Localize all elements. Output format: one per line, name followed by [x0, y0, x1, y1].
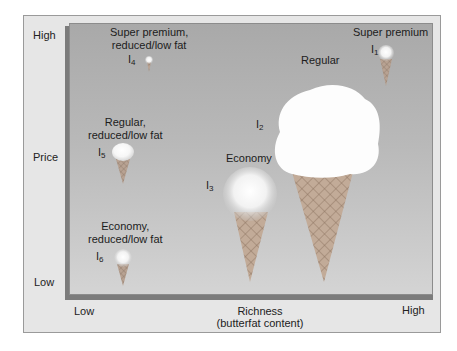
item-sub: 6: [99, 255, 103, 264]
label-line: reduced/low fat: [88, 233, 163, 246]
cone-i4: [145, 56, 153, 72]
item-label-i1: I1: [371, 43, 379, 57]
label-line: Economy,: [88, 220, 163, 233]
y-axis-high: High: [33, 29, 56, 41]
label-regular: Regular: [301, 54, 340, 67]
item-label-i4: I4: [128, 53, 136, 67]
label-super-premium: Super premium: [353, 26, 428, 39]
label-regular-low-fat: Regular, reduced/low fat: [88, 116, 163, 142]
item-sub: 5: [101, 151, 105, 160]
label-economy: Economy: [226, 152, 272, 165]
item-label-i6: I6: [96, 250, 104, 264]
label-line: Regular,: [88, 116, 163, 129]
cone-i5: [112, 143, 134, 184]
x-axis-title: Richness (butterfat content): [200, 305, 320, 329]
x-axis-low: Low: [74, 305, 94, 317]
cone-i2: [275, 85, 380, 282]
label-economy-low-fat: Economy, reduced/low fat: [88, 220, 163, 246]
plot-area: Super premium I1 Regular I2 Economy I3 S…: [69, 23, 433, 295]
cone-i3: [223, 167, 277, 282]
y-axis-low: Low: [34, 276, 54, 288]
label-line: reduced/low fat: [88, 129, 163, 142]
x-axis-high: High: [402, 304, 425, 316]
cone-i6: [114, 249, 132, 286]
item-label-i2: I2: [256, 118, 264, 132]
label-line: Super premium,: [110, 26, 188, 39]
x-axis-title-line1: Richness: [200, 305, 320, 317]
x-axis-title-line2: (butterfat content): [200, 317, 320, 329]
item-sub: 4: [131, 58, 135, 67]
item-label-i3: I3: [206, 179, 214, 193]
item-label-i5: I5: [98, 146, 106, 160]
cone-i1: [378, 45, 394, 86]
label-super-premium-low-fat: Super premium, reduced/low fat: [110, 26, 188, 52]
item-sub: 2: [259, 123, 263, 132]
label-line: reduced/low fat: [110, 39, 188, 52]
item-sub: 1: [374, 48, 378, 57]
item-sub: 3: [209, 184, 213, 193]
y-axis-title: Price: [33, 151, 58, 163]
